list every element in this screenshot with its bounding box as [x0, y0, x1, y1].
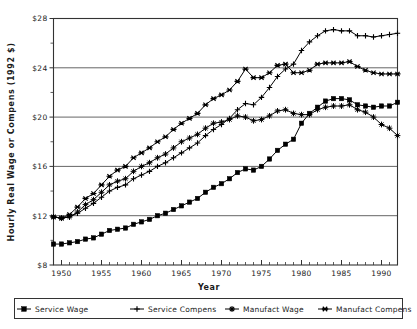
series-0-point-43: [395, 100, 399, 104]
series-2-point-22: [227, 117, 233, 123]
series-2-point-19: [203, 125, 209, 131]
series-3-point-25: [251, 76, 257, 80]
series-service-wage: [51, 96, 399, 246]
series-0-point-40: [371, 105, 375, 109]
legend-label-3: Manufact Compens: [336, 305, 412, 314]
series-service-compens: [51, 27, 400, 221]
series-0-point-16: [179, 204, 183, 208]
series-3-point-33: [315, 62, 321, 66]
y-axis-tick-labels: $8$12$16$20$24$28: [32, 14, 47, 269]
series-0-point-29: [283, 142, 287, 146]
x-tick-label-1980: 1980: [291, 269, 311, 278]
series-1-point-14: [163, 160, 168, 165]
series-0-point-9: [123, 226, 127, 230]
series-0-point-18: [195, 196, 199, 200]
series-3-point-42: [387, 72, 393, 76]
series-0-point-14: [163, 211, 167, 215]
legend-label-0: Service Wage: [35, 305, 89, 314]
series-3-point-30: [291, 71, 297, 75]
y-tick-label-16: $16: [32, 162, 47, 171]
y-axis-ticks-group: [50, 19, 54, 266]
series-0-point-42: [387, 104, 391, 108]
series-0-point-6: [99, 232, 103, 236]
series-0-point-12: [147, 217, 151, 221]
series-1-point-38: [355, 33, 360, 38]
series-2-point-17: [187, 135, 193, 141]
series-2-point-30: [291, 111, 297, 117]
series-0-point-41: [379, 104, 383, 108]
x-tick-label-1960: 1960: [131, 269, 151, 278]
series-2-point-8: [115, 178, 121, 184]
series-3-point-20: [211, 96, 217, 100]
series-1-point-40: [371, 34, 376, 39]
series-2-point-43: [395, 133, 401, 139]
series-2-point-18: [195, 131, 201, 137]
series-0-point-25: [251, 168, 255, 172]
series-0-point-4: [83, 237, 87, 241]
series-1-point-15: [171, 155, 176, 160]
series-2-point-32: [307, 112, 313, 118]
series-2-point-31: [299, 112, 305, 118]
series-0-point-24: [243, 167, 247, 171]
series-0-point-38: [355, 103, 359, 107]
series-2-point-34: [323, 104, 329, 110]
series-2-point-10: [131, 168, 137, 174]
series-2-point-11: [139, 164, 145, 170]
series-0-point-19: [203, 190, 207, 194]
series-3-point-15: [171, 127, 177, 131]
series-3-point-23: [235, 79, 241, 83]
series-1-point-39: [363, 33, 368, 38]
x-tick-label-1975: 1975: [251, 269, 271, 278]
series-2-point-25: [251, 118, 257, 124]
series-3-point-5: [91, 191, 97, 195]
series-3-point-22: [227, 88, 233, 92]
series-0-point-7: [107, 228, 111, 232]
series-3-point-18: [195, 111, 201, 115]
series-3-point-39: [363, 68, 369, 72]
series-2-point-35: [331, 103, 337, 109]
series-2-point-14: [163, 151, 169, 157]
x-tick-label-1965: 1965: [171, 269, 191, 278]
series-2-point-40: [371, 114, 377, 120]
x-axis-title: Year: [197, 283, 220, 292]
series-0-point-11: [139, 220, 143, 224]
series-2-point-42: [387, 125, 393, 131]
series-0-point-10: [131, 222, 135, 226]
series-3-point-28: [275, 63, 281, 67]
series-1-point-11: [139, 172, 144, 177]
series-2-point-24: [243, 114, 249, 120]
series-2-point-6: [99, 189, 105, 195]
series-2-point-29: [283, 107, 289, 113]
series-3-point-27: [267, 71, 273, 75]
legend-label-1: Service Compens: [148, 305, 216, 314]
series-3-point-7: [107, 174, 113, 178]
series-0-point-13: [155, 214, 159, 218]
series-1-point-34: [323, 28, 328, 33]
series-2-point-5: [91, 197, 97, 203]
series-2-point-12: [147, 160, 153, 166]
series-1-point-41: [379, 33, 384, 38]
series-2-point-41: [379, 122, 385, 128]
series-3-point-26: [259, 76, 265, 80]
x-tick-label-1985: 1985: [331, 269, 351, 278]
gridlines-group: [54, 68, 398, 216]
series-2-point-38: [355, 107, 361, 113]
series-3-point-4: [83, 196, 89, 200]
series-2-point-26: [259, 117, 265, 123]
series-1-point-12: [147, 169, 152, 174]
series-3-point-12: [147, 146, 153, 150]
series-2-point-13: [155, 155, 161, 161]
series-0-point-36: [339, 96, 343, 100]
series-3-point-31: [299, 71, 305, 75]
series-3-point-10: [131, 156, 137, 160]
series-0-point-0: [51, 242, 55, 246]
series-3-point-35: [331, 61, 337, 65]
series-0-point-23: [235, 170, 239, 174]
series-1-point-35: [331, 27, 336, 32]
series-0-point-17: [187, 200, 191, 204]
x-axis-tick-labels: 195019551960196519701975198019851990: [51, 269, 391, 278]
series-1-point-37: [347, 28, 352, 33]
series-0-point-20: [211, 185, 215, 189]
y-tick-label-8: $8: [37, 261, 47, 270]
series-1-point-43: [395, 31, 400, 36]
